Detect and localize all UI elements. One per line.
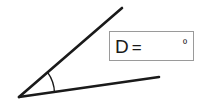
degree-symbol-icon: º	[183, 38, 187, 49]
answer-value-input[interactable]	[142, 35, 183, 57]
variable-label: D	[115, 37, 129, 56]
angle-arc	[48, 72, 55, 93]
angle-problem-canvas: D = º	[0, 0, 204, 100]
answer-input-box[interactable]: D = º	[109, 31, 194, 61]
answer-label-group: D =	[115, 37, 142, 56]
equals-sign: =	[132, 39, 142, 56]
